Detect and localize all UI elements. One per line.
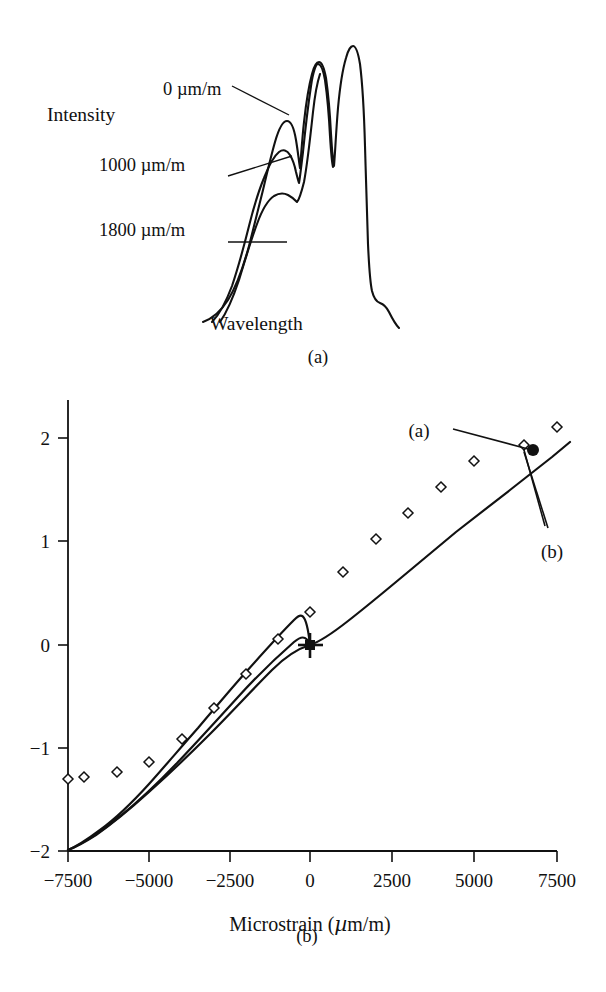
y-tick-label-m1: −1 — [30, 738, 50, 759]
annotation-a-leader — [453, 429, 528, 449]
panel-a-spectrum: Intensity 0 µm/m 1000 µm/m 1800 µm/m Wav… — [0, 0, 606, 380]
y-axis-tick-labels: 2 1 0 −1 −2 — [30, 428, 50, 862]
leader-line-0 — [232, 86, 289, 115]
panel-a-caption: (a) — [0, 347, 606, 368]
annotation-b-label: (b) — [541, 541, 563, 563]
curve-label-0: 0 µm/m — [163, 79, 221, 100]
spectrum-plot — [0, 0, 606, 380]
data-point-marker — [273, 634, 283, 644]
data-point-marker — [338, 567, 348, 577]
y-axis-ticks — [58, 438, 68, 851]
y-tick-label-2: 2 — [41, 428, 51, 449]
annotation-a-label: (a) — [408, 420, 429, 442]
y-tick-label-m2: −2 — [30, 841, 50, 862]
panel-a-caption-text: (a) — [308, 347, 329, 367]
operating-point-marker — [527, 444, 539, 456]
leader-line-1000 — [228, 156, 292, 176]
origin-cross-center — [305, 640, 315, 650]
fitted-curve — [68, 616, 310, 850]
intensity-axis-label: Intensity — [47, 104, 115, 126]
data-point-marker — [436, 482, 446, 492]
y-tick-label-1: 1 — [41, 531, 51, 552]
curve-label-1000: 1000 µm/m — [99, 155, 185, 176]
x-tick-label-2500: 2500 — [373, 870, 411, 891]
x-axis-tick-labels: −7500 −5000 −2500 0 2500 5000 7500 — [44, 870, 576, 891]
panel-b-caption: (b) — [0, 926, 606, 947]
data-point-marker — [371, 534, 381, 544]
curve-label-1800: 1800 µm/m — [99, 220, 185, 241]
x-axis-ticks — [68, 851, 557, 862]
figure-container: Intensity 0 µm/m 1000 µm/m 1800 µm/m Wav… — [0, 0, 606, 992]
x-tick-label-0: 0 — [305, 870, 315, 891]
x-tick-label-m2500: −2500 — [206, 870, 255, 891]
x-tick-label-7500: 7500 — [538, 870, 576, 891]
calibration-plot: 2 1 0 −1 −2 −7500 −5000 −2500 0 — [0, 380, 606, 992]
data-point-markers — [63, 422, 562, 784]
data-point-marker — [403, 508, 413, 518]
panel-b-calibration: 2 1 0 −1 −2 −7500 −5000 −2500 0 — [0, 380, 606, 992]
wavelength-axis-label: Wavelength — [210, 313, 303, 335]
data-point-marker — [63, 774, 73, 784]
data-point-marker — [79, 772, 89, 782]
x-tick-label-m7500: −7500 — [44, 870, 93, 891]
data-point-marker — [305, 607, 315, 617]
data-point-marker — [112, 767, 122, 777]
y-tick-label-0: 0 — [41, 635, 51, 656]
data-point-marker — [144, 757, 154, 767]
x-tick-label-5000: 5000 — [455, 870, 493, 891]
x-tick-label-m5000: −5000 — [125, 870, 174, 891]
data-point-marker — [469, 456, 479, 466]
data-point-marker — [552, 422, 562, 432]
panel-b-caption-text: (b) — [296, 926, 318, 946]
